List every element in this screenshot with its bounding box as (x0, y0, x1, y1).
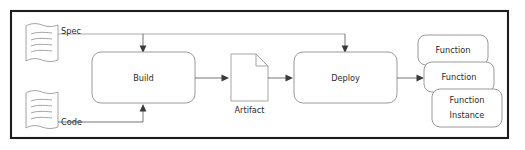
node-label-function-2: Function (442, 72, 477, 82)
code-document-icon (26, 91, 58, 129)
edge-label-code: Code (61, 117, 82, 127)
node-label-build: Build (133, 73, 154, 83)
node-build[interactable]: Build (92, 52, 195, 103)
pipeline-diagram: Spec Code Build Artifact (0, 0, 525, 150)
node-label-function-instance-line1: Function (450, 95, 485, 105)
edge-label-spec: Spec (61, 26, 81, 36)
node-label-deploy: Deploy (331, 73, 360, 83)
diagram-screenshot: Spec Code Build Artifact (0, 0, 525, 150)
node-deploy[interactable]: Deploy (294, 52, 397, 103)
node-function-1[interactable]: Function (418, 35, 488, 65)
spec-document-icon (26, 24, 58, 62)
node-label-function-1: Function (436, 45, 471, 55)
node-function-instance[interactable]: Function Instance (432, 89, 502, 127)
node-label-function-instance-line2: Instance (450, 110, 485, 120)
node-label-artifact: Artifact (234, 105, 265, 115)
artifact-document-icon[interactable]: Artifact (231, 54, 268, 115)
node-function-2[interactable]: Function (424, 62, 494, 92)
